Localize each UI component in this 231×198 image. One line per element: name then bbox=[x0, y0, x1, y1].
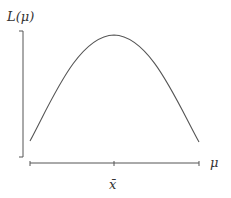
y-axis-label: L(μ) bbox=[7, 10, 34, 23]
y-axis bbox=[19, 31, 23, 157]
x-bar-tick-label: x̄ bbox=[109, 178, 116, 191]
likelihood-curve bbox=[30, 35, 199, 142]
x-axis-label: μ bbox=[210, 156, 218, 169]
likelihood-diagram bbox=[0, 0, 231, 198]
